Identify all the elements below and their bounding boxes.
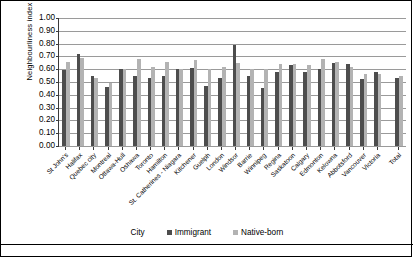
bar-group	[286, 18, 300, 146]
bars-layer	[59, 18, 406, 146]
bar-group	[87, 18, 101, 146]
bar-group	[314, 18, 328, 146]
bar-group	[357, 18, 371, 146]
bar-native-born	[194, 60, 198, 146]
y-axis-tick-label: 0.90	[39, 27, 55, 35]
bar-native-born	[264, 69, 268, 146]
y-axis-tick-label: 0.30	[39, 103, 55, 111]
bar-group	[243, 18, 257, 146]
legend-entry-immigrant: Immigrant	[167, 228, 211, 237]
bar-group	[300, 18, 314, 146]
y-axis-title: Neighbourliness index	[25, 0, 34, 117]
bar-native-born	[179, 69, 183, 146]
y-axis-tick-label: 0.60	[39, 65, 55, 73]
legend-swatch-native-born	[233, 230, 238, 235]
bar-native-born	[222, 67, 226, 146]
legend-swatch-immigrant	[167, 230, 172, 235]
plot-area: 1.000.900.800.700.600.500.400.300.200.10…	[58, 18, 406, 147]
bar-group	[328, 18, 342, 146]
bar-native-born	[350, 67, 354, 146]
y-axis-tick-label: 1.00	[39, 14, 55, 22]
y-axis-tick-label: 0.50	[39, 78, 55, 86]
legend-label-immigrant: Immigrant	[175, 228, 211, 237]
bar-native-born	[137, 59, 141, 146]
bar-native-born	[335, 62, 339, 146]
chart-footer: City Immigrant Native-born	[1, 223, 413, 241]
x-axis-category-labels: St John'sHalifaxQuebec cityMontrealOttaw…	[58, 151, 405, 209]
bar-group	[272, 18, 286, 146]
bar-native-born	[279, 64, 283, 146]
bar-native-born	[364, 74, 368, 146]
bar-group	[215, 18, 229, 146]
y-axis-tick-label: 0.80	[39, 39, 55, 47]
y-axis-tick-label: 0.40	[39, 91, 55, 99]
bar-group	[130, 18, 144, 146]
x-axis-label-slot: Victoria	[370, 151, 384, 209]
bar-native-born	[123, 69, 127, 146]
bar-group	[201, 18, 215, 146]
bar-native-born	[109, 83, 113, 146]
bar-group	[59, 18, 73, 146]
bar-group	[257, 18, 271, 146]
bar-native-born	[151, 67, 155, 146]
bar-native-born	[307, 65, 311, 146]
bar-native-born	[165, 62, 169, 146]
y-axis-tick-label: 0.00	[39, 142, 55, 150]
bar-group	[102, 18, 116, 146]
y-axis-tick-label: 0.20	[39, 116, 55, 124]
x-axis-label-slot: Total	[391, 151, 405, 209]
bar-native-born	[94, 78, 98, 146]
footer-divider	[1, 244, 413, 245]
bar-group	[342, 18, 356, 146]
bar-group	[158, 18, 172, 146]
x-axis-title: City	[131, 228, 145, 237]
bar-native-born	[236, 63, 240, 146]
x-axis-label: Total	[388, 152, 403, 167]
bar-group	[172, 18, 186, 146]
bar-group	[392, 18, 406, 146]
bar-native-born	[80, 58, 84, 146]
bar-native-born	[250, 69, 254, 146]
bar-native-born	[378, 74, 382, 146]
bar-native-born	[208, 69, 212, 146]
bar-group	[229, 18, 243, 146]
y-axis-tick-label: 0.70	[39, 52, 55, 60]
bar-group	[73, 18, 87, 146]
bar-group	[116, 18, 130, 146]
bar-native-born	[399, 76, 403, 146]
legend-entry-native-born: Native-born	[233, 228, 283, 237]
y-axis-tick-label: 0.10	[39, 129, 55, 137]
bar-group	[371, 18, 385, 146]
legend-label-native-born: Native-born	[241, 228, 283, 237]
bar-native-born	[321, 59, 325, 146]
bar-group	[144, 18, 158, 146]
bar-group	[187, 18, 201, 146]
bar-native-born	[66, 62, 70, 146]
bar-native-born	[293, 64, 297, 146]
